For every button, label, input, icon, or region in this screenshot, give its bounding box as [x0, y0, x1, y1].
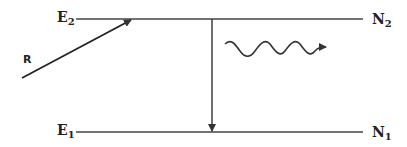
pump-label: R	[23, 53, 31, 67]
upper-energy-symbol: E	[57, 9, 68, 25]
photon-wave-icon	[225, 42, 326, 57]
upper-energy-subscript: 2	[68, 16, 75, 27]
lower-energy-symbol: E	[57, 122, 68, 138]
upper-population-label: N2	[372, 12, 392, 31]
lower-energy-subscript: 1	[68, 129, 75, 140]
pump-arrow	[22, 20, 131, 78]
upper-population-subscript: 2	[385, 18, 392, 29]
upper-energy-label: E2	[57, 10, 75, 29]
lower-population-label: N1	[372, 125, 392, 144]
lower-population-symbol: N	[372, 124, 385, 140]
lower-population-subscript: 1	[385, 131, 392, 142]
upper-population-symbol: N	[372, 11, 385, 27]
lower-energy-label: E1	[57, 123, 75, 142]
